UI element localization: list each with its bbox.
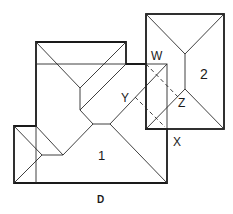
connector-box-w bbox=[146, 64, 167, 129]
dashed-lines bbox=[135, 64, 178, 127]
diagram-caption: D bbox=[97, 194, 104, 205]
building-2-roof-lines bbox=[146, 14, 224, 129]
building-1-outline-lower bbox=[14, 126, 167, 183]
point-label-w: W bbox=[151, 49, 163, 63]
point-label-x: X bbox=[173, 135, 181, 149]
roof-plan-diagram: W X Y Z 1 2 D bbox=[0, 0, 233, 214]
building-1-outline bbox=[36, 42, 146, 126]
point-label-y: Y bbox=[121, 91, 129, 105]
region-label-2: 2 bbox=[200, 66, 208, 82]
region-label-1: 1 bbox=[98, 148, 105, 163]
point-label-z: Z bbox=[178, 96, 185, 110]
